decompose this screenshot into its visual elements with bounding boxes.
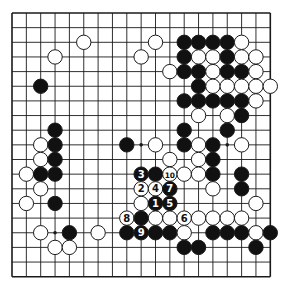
- black-stone: [206, 167, 220, 181]
- black-stone: [220, 50, 234, 64]
- black-stone: [48, 123, 62, 137]
- black-stone: [234, 182, 248, 196]
- white-stone: [177, 226, 191, 240]
- black-stone: [120, 226, 134, 240]
- star-point: [225, 143, 229, 147]
- white-stone: [191, 108, 205, 122]
- stones-layer: 31024715869: [19, 35, 277, 255]
- white-stone: [191, 138, 205, 152]
- star-point: [53, 231, 57, 235]
- white-stone: [77, 35, 91, 49]
- white-stone: [206, 79, 220, 93]
- black-stone: [148, 167, 162, 181]
- black-stone: [177, 50, 191, 64]
- white-stone: [249, 50, 263, 64]
- black-stone: [234, 64, 248, 78]
- move-number: 5: [166, 198, 173, 209]
- black-stone: [206, 94, 220, 108]
- white-stone: [163, 152, 177, 166]
- black-stone: 9: [134, 226, 148, 240]
- black-stone: [177, 94, 191, 108]
- white-stone: [163, 64, 177, 78]
- black-stone: 3: [134, 167, 148, 181]
- go-board: 31024715869: [0, 0, 287, 298]
- black-stone: [234, 167, 248, 181]
- black-stone: [234, 226, 248, 240]
- white-stone: [234, 211, 248, 225]
- move-number: 4: [152, 183, 159, 194]
- black-stone: [191, 79, 205, 93]
- white-stone: [206, 211, 220, 225]
- black-stone: [134, 211, 148, 225]
- white-stone: [34, 152, 48, 166]
- black-stone: [34, 167, 48, 181]
- white-stone: [234, 138, 248, 152]
- black-stone: [206, 35, 220, 49]
- black-stone: [220, 226, 234, 240]
- white-stone: [234, 35, 248, 49]
- move-number: 9: [138, 227, 145, 238]
- black-stone: [206, 138, 220, 152]
- white-stone: [177, 167, 191, 181]
- white-stone: [206, 64, 220, 78]
- black-stone: [191, 64, 205, 78]
- white-stone: [48, 240, 62, 254]
- black-stone: [148, 226, 162, 240]
- white-stone: [163, 211, 177, 225]
- white-stone: [34, 182, 48, 196]
- white-stone: 4: [148, 182, 162, 196]
- white-stone: [249, 226, 263, 240]
- white-stone: [148, 138, 162, 152]
- black-stone: [191, 35, 205, 49]
- white-stone: [249, 64, 263, 78]
- move-number: 3: [138, 169, 145, 180]
- white-stone: [148, 35, 162, 49]
- black-stone: [177, 123, 191, 137]
- black-stone: [120, 138, 134, 152]
- white-stone: [249, 94, 263, 108]
- move-number: 10: [165, 171, 175, 180]
- white-stone: [234, 79, 248, 93]
- black-stone: [234, 108, 248, 122]
- star-point: [139, 143, 143, 147]
- white-stone: [91, 226, 105, 240]
- black-stone: [34, 79, 48, 93]
- black-stone: 5: [163, 196, 177, 210]
- move-number: 2: [138, 183, 145, 194]
- white-stone: [62, 240, 76, 254]
- white-stone: [206, 182, 220, 196]
- black-stone: [220, 123, 234, 137]
- black-stone: 7: [163, 182, 177, 196]
- white-stone: 2: [134, 182, 148, 196]
- white-stone: [34, 138, 48, 152]
- black-stone: [234, 94, 248, 108]
- black-stone: [48, 196, 62, 210]
- black-stone: [263, 226, 277, 240]
- white-stone: [134, 50, 148, 64]
- white-stone: [234, 50, 248, 64]
- black-stone: [191, 240, 205, 254]
- black-stone: [191, 94, 205, 108]
- move-number: 1: [152, 198, 159, 209]
- white-stone: [19, 196, 33, 210]
- black-stone: [177, 64, 191, 78]
- black-stone: [220, 35, 234, 49]
- black-stone: [206, 226, 220, 240]
- black-stone: 1: [148, 196, 162, 210]
- white-stone: [191, 167, 205, 181]
- white-stone: [249, 79, 263, 93]
- black-stone: [62, 226, 76, 240]
- move-number: 6: [181, 213, 188, 224]
- white-stone: [191, 211, 205, 225]
- black-stone: [249, 240, 263, 254]
- white-stone: [134, 196, 148, 210]
- black-stone: [177, 35, 191, 49]
- white-stone: [220, 211, 234, 225]
- white-stone: [220, 79, 234, 93]
- move-number: 7: [166, 183, 173, 194]
- white-stone: [220, 108, 234, 122]
- white-stone: [263, 79, 277, 93]
- black-stone: [163, 226, 177, 240]
- white-stone: [48, 50, 62, 64]
- white-stone: [148, 211, 162, 225]
